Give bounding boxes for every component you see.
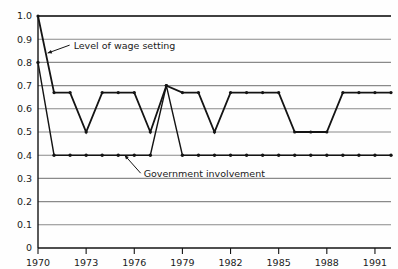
data-point-marker (261, 154, 264, 157)
y-tick-label: 0.4 (17, 150, 32, 161)
data-point-marker (373, 91, 376, 94)
x-tick-label: 1976 (122, 257, 146, 268)
data-point-marker (133, 91, 136, 94)
x-tick-label: 1985 (267, 257, 291, 268)
data-point-marker (101, 91, 104, 94)
y-tick-label: 0.7 (17, 80, 32, 91)
data-point-marker (181, 91, 184, 94)
data-point-marker (149, 130, 152, 133)
wage-setting-annotation-label: Level of wage setting (74, 40, 176, 51)
data-point-marker (229, 91, 232, 94)
x-tick-label: 1988 (315, 257, 339, 268)
data-point-marker (181, 154, 184, 157)
data-point-marker (261, 91, 264, 94)
data-point-marker (85, 130, 88, 133)
data-point-marker (325, 130, 328, 133)
x-tick-label: 1991 (363, 257, 387, 268)
x-tick-label: 1970 (26, 257, 50, 268)
y-tick-label: 0.8 (17, 57, 32, 68)
data-point-marker (100, 154, 103, 157)
x-tick-label: 1973 (74, 257, 98, 268)
chart-background (0, 0, 398, 269)
data-point-marker (165, 84, 168, 87)
data-point-marker (197, 91, 200, 94)
data-point-marker (149, 154, 152, 157)
chart-container: 00.10.20.30.40.50.60.70.80.91.0 19701973… (0, 0, 398, 269)
data-point-marker (357, 154, 360, 157)
data-point-marker (309, 154, 312, 157)
data-point-marker (373, 154, 376, 157)
y-tick-label: 0.3 (17, 173, 32, 184)
data-point-marker (213, 130, 216, 133)
y-tick-label: 1.0 (17, 10, 32, 21)
data-point-marker (341, 154, 344, 157)
data-point-marker (293, 130, 296, 133)
data-point-marker (117, 154, 120, 157)
data-point-marker (357, 91, 360, 94)
data-point-marker (389, 91, 392, 94)
y-tick-label: 0 (26, 242, 32, 253)
data-point-marker (277, 154, 280, 157)
data-point-marker (36, 14, 39, 17)
data-point-marker (68, 91, 71, 94)
x-tick-label: 1979 (170, 257, 194, 268)
data-point-marker (52, 91, 55, 94)
y-tick-label: 0.2 (17, 196, 32, 207)
data-point-marker (117, 91, 120, 94)
data-point-marker (84, 154, 87, 157)
data-point-marker (68, 154, 71, 157)
y-tick-label: 0.1 (17, 219, 32, 230)
y-tick-label: 0.6 (17, 103, 32, 114)
data-point-marker (309, 130, 312, 133)
data-point-marker (389, 154, 392, 157)
data-point-marker (52, 154, 55, 157)
data-point-marker (325, 154, 328, 157)
data-point-marker (213, 154, 216, 157)
y-tick-label: 0.9 (17, 34, 32, 45)
data-point-marker (133, 154, 136, 157)
data-point-marker (229, 154, 232, 157)
data-point-marker (36, 61, 39, 64)
government-involvement-annotation-label: Government involvement (144, 168, 266, 179)
data-point-marker (277, 91, 280, 94)
data-point-marker (341, 91, 344, 94)
y-tick-label: 0.5 (17, 126, 32, 137)
data-point-marker (197, 154, 200, 157)
data-point-marker (245, 91, 248, 94)
x-tick-label: 1982 (218, 257, 242, 268)
data-point-marker (245, 154, 248, 157)
data-point-marker (293, 154, 296, 157)
line-chart: 00.10.20.30.40.50.60.70.80.91.0 19701973… (0, 0, 398, 269)
